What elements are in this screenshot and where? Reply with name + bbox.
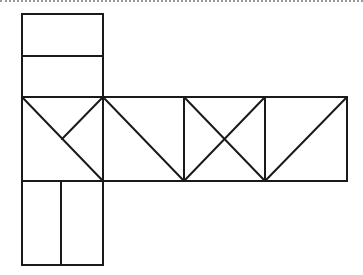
top-lower-rect [22,56,103,97]
bottom-right-rect [61,181,103,265]
square1-half-diagonal [62,97,103,139]
rectangles-layer [22,14,347,265]
cube-net-diagram [0,0,363,275]
square4-diagonal [265,97,347,181]
top-upper-rect [22,14,103,56]
bottom-left-rect [22,181,61,265]
square2-diagonal [103,97,184,181]
